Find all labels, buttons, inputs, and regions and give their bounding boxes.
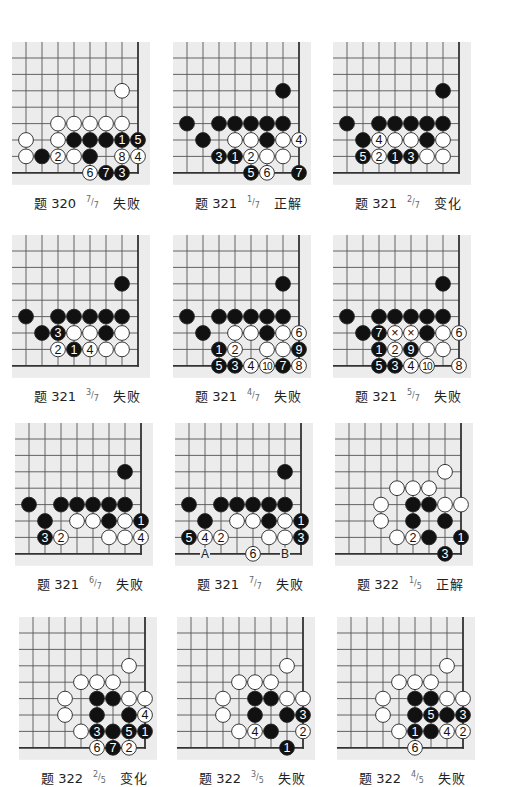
white-stone	[280, 658, 295, 673]
move-number: 2	[55, 343, 62, 357]
white-stone	[244, 326, 259, 341]
black-stone	[276, 116, 291, 131]
white-stone: 6	[246, 546, 261, 561]
black-stone	[436, 83, 451, 98]
go-board: 1324	[15, 423, 175, 573]
white-stone: 10	[420, 358, 435, 373]
move-number: 7	[110, 741, 117, 755]
black-stone: 3	[90, 724, 105, 739]
diagram-caption: 题 322 1/5 正解	[357, 574, 464, 593]
black-stone: 3	[294, 530, 309, 545]
black-stone: 3	[115, 165, 130, 180]
white-stone: ×	[388, 326, 403, 341]
white-stone: 4	[292, 133, 307, 148]
black-stone: 1	[138, 724, 153, 739]
black-stone: 1	[408, 724, 423, 739]
diagram-caption: 题 321 7/7 失败	[197, 574, 304, 593]
black-stone	[180, 309, 195, 324]
diagram-caption: 题 322 2/5 变化	[41, 768, 148, 787]
move-number: 3	[392, 359, 399, 373]
result-label: 失败	[438, 768, 466, 787]
black-stone	[90, 708, 105, 723]
white-stone	[436, 342, 451, 357]
white-stone	[51, 133, 66, 148]
black-stone	[180, 116, 195, 131]
go-board: AB154236	[175, 423, 335, 573]
black-stone	[406, 497, 421, 512]
move-number: 2	[232, 343, 239, 357]
white-stone	[83, 116, 98, 131]
result-label: 变化	[120, 768, 148, 787]
go-board: 7××6129534108	[333, 235, 493, 385]
black-stone	[102, 497, 117, 512]
black-stone: 7	[106, 740, 121, 755]
move-number: 7	[280, 359, 287, 373]
problem-number: 题 321	[355, 193, 397, 212]
white-stone: 8	[292, 358, 307, 373]
move-number: 3	[216, 150, 223, 164]
black-stone	[244, 116, 259, 131]
move-number: 3	[460, 708, 467, 722]
white-stone	[232, 724, 247, 739]
black-stone: 1	[134, 514, 149, 529]
white-stone	[420, 149, 435, 164]
white-stone: 2	[244, 149, 259, 164]
white-stone	[392, 724, 407, 739]
white-stone	[440, 658, 455, 673]
diagram-caption: 题 321 1/7 正解	[195, 193, 302, 212]
white-stone	[228, 133, 243, 148]
black-stone	[90, 691, 105, 706]
diagram-caption: 题 321 5/7 失败	[355, 386, 462, 405]
point-label: A	[201, 547, 209, 561]
white-stone: 2	[51, 342, 66, 357]
white-stone	[86, 514, 101, 529]
white-stone	[115, 326, 130, 341]
white-stone	[138, 691, 153, 706]
move-fraction: 1/7	[247, 198, 260, 207]
white-stone	[438, 497, 453, 512]
black-stone	[106, 724, 121, 739]
white-stone	[296, 691, 311, 706]
move-number: 5	[216, 359, 223, 373]
black-stone	[260, 309, 275, 324]
white-stone	[216, 691, 231, 706]
go-board: 531426	[337, 617, 497, 767]
black-stone	[99, 326, 114, 341]
white-stone	[454, 497, 469, 512]
black-stone	[406, 514, 421, 529]
black-stone	[422, 497, 437, 512]
white-stone	[438, 464, 453, 479]
white-stone	[408, 675, 423, 690]
move-number: 4	[376, 133, 383, 147]
black-stone	[115, 309, 130, 324]
result-label: 失败	[434, 386, 462, 405]
black-stone	[408, 691, 423, 706]
move-number: 7	[376, 326, 383, 340]
white-stone	[58, 708, 73, 723]
white-stone	[376, 708, 391, 723]
black-stone	[230, 497, 245, 512]
black-stone	[118, 497, 133, 512]
move-number: 3	[408, 150, 415, 164]
black-stone	[404, 116, 419, 131]
move-number: 6	[264, 166, 271, 180]
white-stone	[278, 530, 293, 545]
black-stone	[264, 691, 279, 706]
white-stone	[74, 724, 89, 739]
go-board: 3214	[12, 235, 172, 385]
move-fraction: 5/7	[407, 391, 420, 400]
result-label: 失败	[276, 574, 304, 593]
white-stone: ×	[404, 326, 419, 341]
black-stone: 5	[182, 530, 197, 545]
move-number: 9	[296, 343, 303, 357]
move-number: 6	[412, 741, 419, 755]
white-stone	[118, 514, 133, 529]
white-stone	[83, 326, 98, 341]
white-stone	[440, 691, 455, 706]
white-stone	[115, 342, 130, 357]
black-stone	[276, 83, 291, 98]
problem-number: 题 321	[195, 386, 237, 405]
black-stone: 5	[356, 149, 371, 164]
move-number: 1	[412, 725, 419, 739]
move-number: 4	[296, 133, 303, 147]
